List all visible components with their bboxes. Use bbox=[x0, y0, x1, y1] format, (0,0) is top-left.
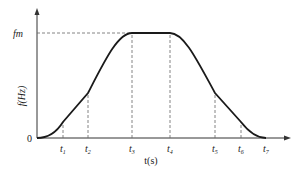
tick-t1: t1 bbox=[60, 143, 66, 155]
y-axis-label: f(Hz) bbox=[16, 85, 28, 106]
y-axis-arrow-icon bbox=[35, 8, 40, 15]
fm-label: fm bbox=[13, 28, 23, 39]
x-axis-arrow-icon bbox=[284, 136, 291, 141]
frequency-time-diagram: fm 0 f(Hz) t1 t2 t3 t4 t5 t6 t7 t(s) bbox=[0, 0, 301, 173]
tick-t7: t7 bbox=[263, 143, 270, 155]
tick-t2: t2 bbox=[85, 143, 91, 155]
time-guide-lines bbox=[63, 33, 241, 138]
x-axis-label: t(s) bbox=[144, 155, 157, 167]
tick-labels: t1 t2 t3 t4 t5 t6 t7 bbox=[60, 143, 270, 155]
tick-t3: t3 bbox=[129, 143, 135, 155]
origin-label: 0 bbox=[27, 133, 32, 144]
tick-t6: t6 bbox=[238, 143, 244, 155]
tick-t5: t5 bbox=[212, 143, 218, 155]
frequency-curve bbox=[37, 33, 266, 138]
tick-t4: t4 bbox=[167, 143, 173, 155]
